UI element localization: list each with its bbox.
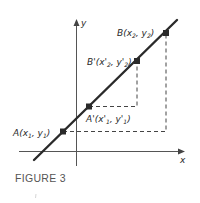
point-A-label: A(x1, y1): [12, 128, 50, 139]
y-axis-arrow-icon: [74, 19, 80, 26]
point-B-marker: [163, 30, 169, 36]
stray-mark: [36, 194, 37, 198]
x-axis-arrow-icon: [178, 149, 185, 155]
x-axis-label: x: [179, 155, 186, 165]
point-A-prime-marker: [86, 104, 92, 110]
line-through-points: [34, 20, 177, 160]
point-B-prime-label: B'(x'2, y'2): [87, 57, 132, 68]
point-B-label: B(x2, y2): [117, 28, 154, 39]
point-A-marker: [60, 129, 66, 135]
point-A-prime-label: A'(x'1, y'1): [85, 114, 131, 125]
point-B-prime-marker: [134, 58, 140, 64]
y-axis-label: y: [80, 18, 87, 28]
figure-caption: FIGURE 3: [15, 172, 66, 184]
figure-diagram: x y A(x1, y1) A'(x'1, y'1) B'(x'2, y'2) …: [0, 0, 200, 203]
